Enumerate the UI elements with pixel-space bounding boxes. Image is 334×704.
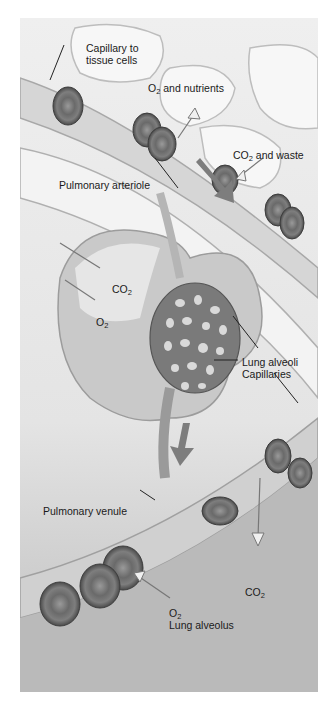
label-lung-alveoli-capillaries: Lung alveoli Capillaries xyxy=(242,356,298,380)
gas-exchange-illustration: Capillary to tissue cells O2 and nutrien… xyxy=(20,18,318,692)
label-pulmonary-venule: Pulmonary venule xyxy=(43,505,127,517)
label-co2-bottom: CO2 xyxy=(245,586,265,598)
label-o2-alveolus: O2 xyxy=(96,316,108,328)
illustration-artwork xyxy=(20,18,318,692)
label-co2-alveolus: CO2 xyxy=(112,283,132,295)
label-capillary-to-tissue-cells: Capillary to tissue cells xyxy=(86,42,139,66)
label-pulmonary-arteriole: Pulmonary arteriole xyxy=(59,179,150,191)
label-o2-and-nutrients: O2 and nutrients xyxy=(148,82,224,94)
label-o2-lung-alveolus: O2 Lung alveolus xyxy=(169,607,234,631)
label-co2-and-waste: CO2 and waste xyxy=(233,149,304,161)
